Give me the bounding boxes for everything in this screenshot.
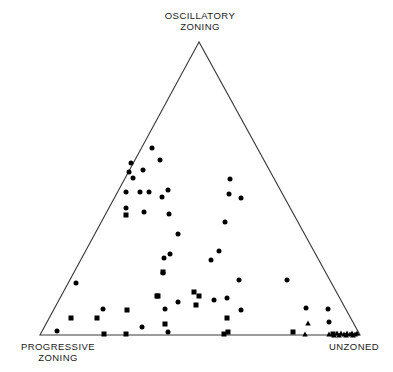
data-point-circle <box>142 210 147 215</box>
ternary-diagram-figure: OSCILLATORY ZONING PROGRESSIVE ZONING UN… <box>0 0 393 372</box>
data-point-square <box>155 294 160 299</box>
data-point-circle <box>101 307 106 312</box>
data-point-square <box>194 303 199 308</box>
data-point-circle <box>124 190 129 195</box>
data-point-circle <box>55 329 60 334</box>
data-point-circle <box>176 232 181 237</box>
data-point-square <box>161 270 166 275</box>
data-point-circle <box>223 220 228 225</box>
data-point-square <box>192 290 197 295</box>
data-point-circle <box>304 306 309 311</box>
data-point-circle <box>124 206 129 211</box>
data-point-circle <box>147 190 152 195</box>
data-point-circle <box>150 146 155 151</box>
data-point-square <box>124 213 129 218</box>
data-point-square <box>225 316 230 321</box>
data-point-square <box>69 316 74 321</box>
data-point-square <box>124 332 129 337</box>
data-point-circle <box>176 300 181 305</box>
vertex-label-oscillatory-zoning: OSCILLATORY ZONING <box>140 10 260 32</box>
data-point-circle <box>209 258 214 263</box>
data-point-circle <box>217 249 222 254</box>
data-point-square <box>197 294 202 299</box>
ternary-plot-canvas <box>0 0 393 372</box>
data-point-circle <box>138 190 143 195</box>
data-point-triangle <box>302 331 308 336</box>
data-point-circle <box>127 170 132 175</box>
data-point-circle <box>141 168 146 173</box>
data-point-circle <box>239 196 244 201</box>
data-point-square <box>102 332 107 337</box>
vertex-label-unzoned: UNZONED <box>316 341 392 352</box>
data-point-circle <box>225 296 230 301</box>
data-point-circle <box>239 308 244 313</box>
data-point-circle <box>131 176 136 181</box>
data-point-circle <box>74 281 79 286</box>
data-point-triangle <box>305 320 311 325</box>
data-point-square <box>95 316 100 321</box>
data-point-circle <box>212 298 217 303</box>
data-point-circle <box>166 188 171 193</box>
vertex-label-progressive-zoning: PROGRESSIVE ZONING <box>2 341 114 363</box>
data-point-square <box>226 330 231 335</box>
data-point-circle <box>140 325 145 330</box>
data-point-circle <box>163 307 168 312</box>
data-point-circle <box>227 192 232 197</box>
data-point-circle <box>326 307 331 312</box>
data-point-circle <box>160 195 165 200</box>
data-point-circle <box>167 212 172 217</box>
data-point-circle <box>129 161 134 166</box>
data-point-circle <box>285 278 290 283</box>
data-point-square <box>125 308 130 313</box>
data-point-square <box>291 330 296 335</box>
data-point-square <box>163 322 168 327</box>
data-point-circle <box>166 330 171 335</box>
data-markers-layer <box>55 146 360 338</box>
data-point-circle <box>327 320 332 325</box>
data-point-circle <box>228 177 233 182</box>
data-point-circle <box>158 158 163 163</box>
triangle-outline-group <box>40 42 360 335</box>
triangle-outline <box>40 42 360 335</box>
data-point-circle <box>162 256 167 261</box>
data-point-circle <box>237 278 242 283</box>
data-point-circle <box>168 252 173 257</box>
